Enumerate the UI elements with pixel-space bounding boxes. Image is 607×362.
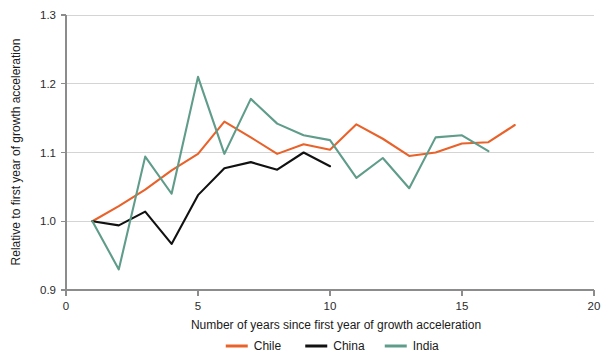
y-tick-label: 1.0 (40, 215, 56, 227)
gridlines-group (66, 15, 594, 290)
series-line-india (92, 77, 488, 270)
y-tick-label: 1.1 (40, 147, 56, 159)
x-tick-label: 10 (324, 300, 337, 312)
legend-label-chile: Chile (254, 339, 282, 353)
x-tick-label: 5 (195, 300, 201, 312)
axes-group (61, 15, 594, 296)
legend-label-china: China (333, 339, 365, 353)
x-tick-label: 20 (588, 300, 601, 312)
x-tick-label: 15 (456, 300, 469, 312)
x-tick-label: 0 (63, 300, 69, 312)
y-axis-title: Relative to first year of growth acceler… (9, 39, 23, 266)
line-chart: 0.91.01.11.21.3 05101520 Relative to fir… (0, 0, 607, 362)
x-tick-labels: 05101520 (63, 300, 601, 312)
legend: ChileChinaIndia (226, 339, 439, 353)
series-lines (92, 77, 514, 270)
y-tick-label: 0.9 (40, 284, 56, 296)
y-tick-labels: 0.91.01.11.21.3 (40, 9, 56, 296)
y-tick-label: 1.3 (40, 9, 56, 21)
x-axis-title: Number of years since first year of grow… (191, 318, 481, 332)
chart-container: 0.91.01.11.21.3 05101520 Relative to fir… (0, 0, 607, 362)
legend-label-india: India (413, 339, 439, 353)
y-tick-label: 1.2 (40, 78, 56, 90)
